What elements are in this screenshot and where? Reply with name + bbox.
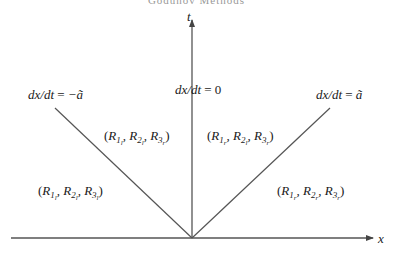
region-far-right: (R1r, R2r, R3r) [277, 184, 344, 202]
contact-speed-label: dx/dt = 0 [175, 83, 221, 96]
x-axis-label: x [378, 232, 384, 245]
region-far-left: (R1l, R2l, R3l) [38, 184, 103, 202]
t-axis-label: t [187, 10, 191, 23]
riemann-fan-diagram [0, 0, 393, 255]
region-mid-left: (R1l, R2l, R3r) [104, 129, 170, 147]
left-wave-speed-label: dx/dt = −ã [28, 88, 83, 101]
region-mid-right: (R1r, R2l, R3r) [207, 129, 273, 147]
right-wave-speed-label: dx/dt = ã [316, 88, 362, 101]
